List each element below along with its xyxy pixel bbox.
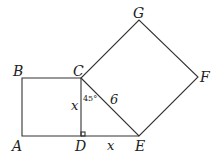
square-cefg — [81, 20, 198, 136]
label-f: F — [199, 69, 211, 85]
label-side-ce: 6 — [110, 92, 118, 107]
label-d: D — [74, 138, 86, 154]
label-side-cd: x — [71, 98, 79, 113]
label-side-de: x — [107, 138, 115, 153]
geometry-diagram: A B C D E F G x x 6 45° — [0, 0, 220, 158]
right-angle-marker — [81, 132, 85, 136]
label-c: C — [73, 63, 84, 79]
label-angle-dce: 45° — [83, 94, 97, 103]
label-a: A — [10, 138, 22, 154]
label-e: E — [134, 138, 145, 154]
label-g: G — [133, 5, 144, 21]
label-b: B — [12, 63, 23, 79]
